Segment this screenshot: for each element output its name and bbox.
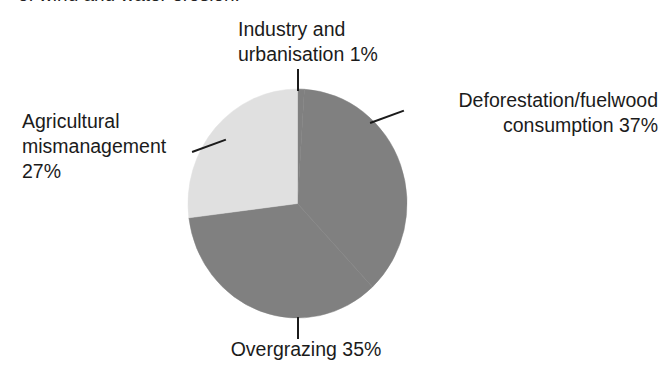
leader-line-overgrazing bbox=[297, 317, 299, 339]
pie-svg bbox=[187, 88, 408, 319]
caption-text: of wind and water erosion. bbox=[18, 0, 438, 7]
caption-clipped-line: of wind and water erosion. bbox=[18, 0, 438, 7]
pie-label-industry: Industry and urbanisation 1% bbox=[238, 17, 438, 67]
pie-chart bbox=[187, 88, 408, 319]
leader-line-industry bbox=[297, 69, 299, 91]
pie-label-overgrazing: Overgrazing 35% bbox=[186, 337, 426, 362]
pie-slices bbox=[188, 89, 407, 318]
pie-chart-figure: of wind and water erosion. Industry and … bbox=[0, 0, 667, 371]
pie-label-agricultural: Agricultural mismanagement 27% bbox=[22, 109, 217, 184]
pie-label-deforestation: Deforestation/fuelwood consumption 37% bbox=[396, 88, 658, 138]
